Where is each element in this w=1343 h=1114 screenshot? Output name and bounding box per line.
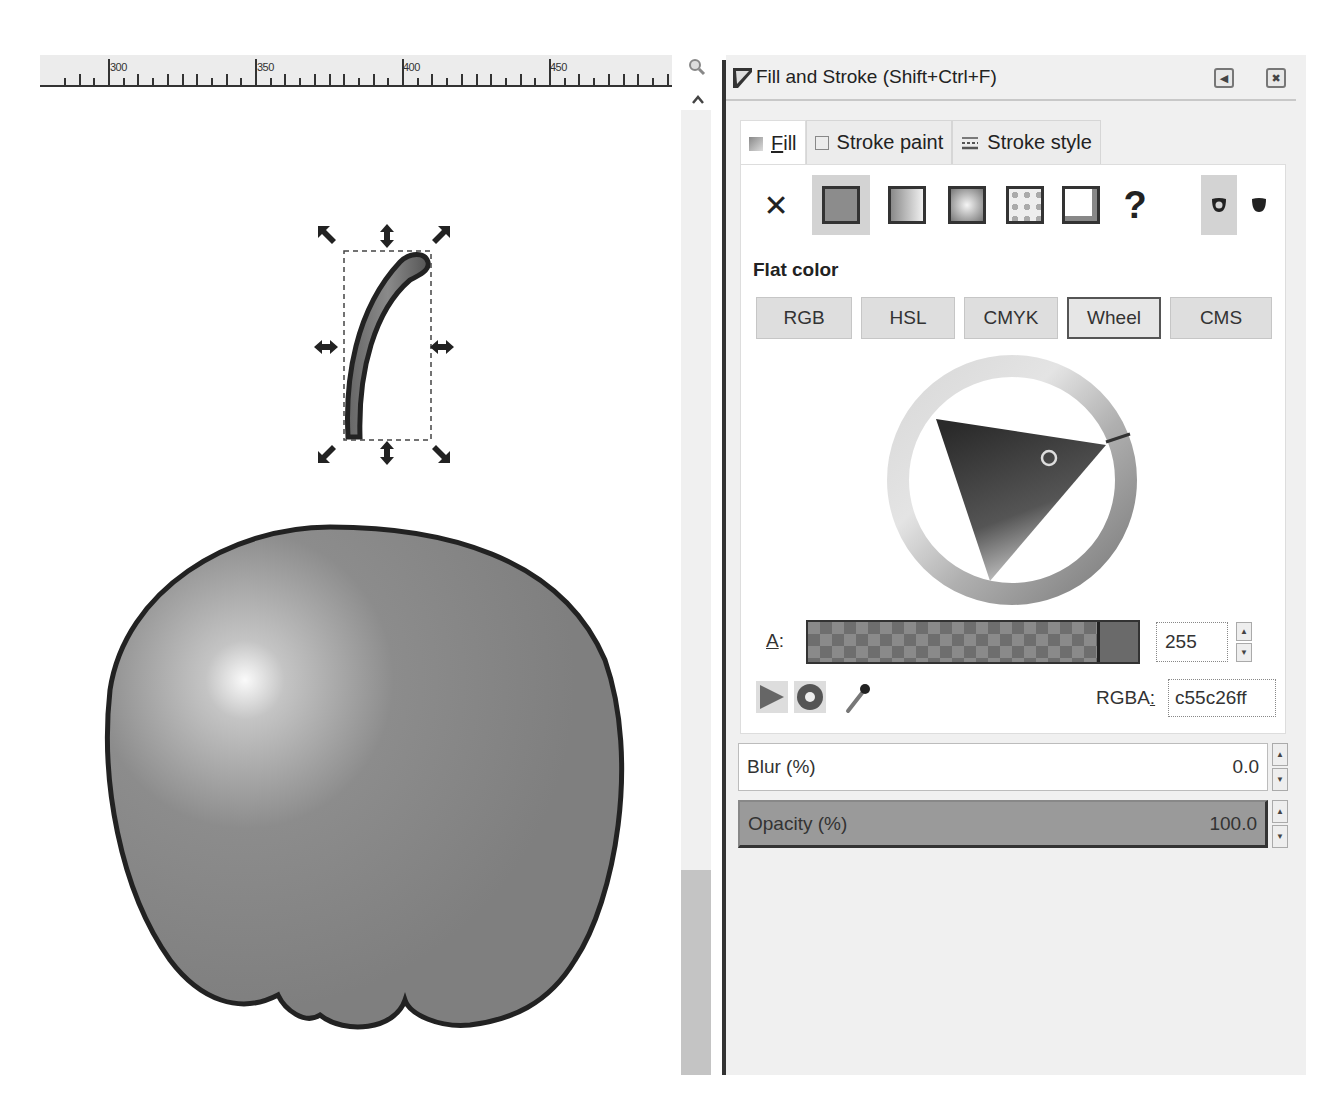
color-mode-tabs: RGB HSL CMYK Wheel CMS	[756, 297, 1272, 339]
out-of-gamut-icon[interactable]	[794, 681, 826, 713]
alpha-label: A:	[766, 630, 784, 652]
dialog-titlebar: Fill and Stroke (Shift+Ctrl+F) ◀ ✖	[726, 55, 1296, 101]
mode-cms-button[interactable]: CMS	[1170, 297, 1272, 339]
spin-down-icon[interactable]: ▼	[1272, 825, 1288, 848]
alpha-value-input[interactable]: 255	[1156, 622, 1228, 662]
tab-stroke-paint-label: Stroke paint	[837, 131, 944, 154]
no-paint-button[interactable]: ✕	[756, 175, 796, 235]
opacity-value: 100.0	[1209, 813, 1257, 835]
scale-handle-w[interactable]	[314, 340, 338, 354]
opacity-slider[interactable]: Opacity (%) 100.0	[738, 800, 1268, 848]
tab-fill[interactable]: Fill	[740, 120, 806, 166]
linear-gradient-icon	[888, 186, 926, 224]
spin-down-icon[interactable]: ▼	[1236, 643, 1252, 662]
stroke-paint-icon	[815, 136, 829, 150]
alpha-spinner[interactable]: ▲ ▼	[1236, 622, 1252, 662]
mode-cmyk-button[interactable]: CMYK	[964, 297, 1058, 339]
blur-spinner[interactable]: ▲ ▼	[1272, 743, 1288, 791]
color-wheel[interactable]	[884, 345, 1144, 615]
scale-handle-s[interactable]	[380, 441, 394, 465]
spin-up-icon[interactable]: ▲	[1272, 743, 1288, 766]
spin-up-icon[interactable]: ▲	[1272, 800, 1288, 823]
mode-hsl-button[interactable]: HSL	[861, 297, 955, 339]
unset-paint-button[interactable]: ?	[1106, 175, 1164, 235]
flat-color-button[interactable]	[812, 175, 870, 235]
pattern-button[interactable]	[996, 175, 1054, 235]
color-managed-icon[interactable]	[756, 681, 788, 713]
radial-gradient-icon	[948, 186, 986, 224]
rgba-input[interactable]: c55c26ff	[1168, 679, 1276, 717]
unset-icon: ?	[1123, 184, 1146, 227]
chevron-up-icon[interactable]	[690, 92, 706, 106]
scale-handle-ne[interactable]	[432, 226, 450, 244]
no-paint-icon: ✕	[763, 188, 788, 223]
fill-rule-evenodd-button[interactable]	[1201, 175, 1237, 235]
paint-type-row: ✕ ?	[756, 175, 1276, 235]
paint-mode-label: Flat color	[753, 259, 839, 281]
tab-stroke-paint[interactable]: Stroke paint	[806, 120, 953, 164]
scale-handle-e[interactable]	[430, 340, 454, 354]
blur-value: 0.0	[1233, 756, 1259, 778]
swatch-button[interactable]	[1052, 175, 1110, 235]
radial-gradient-button[interactable]	[938, 175, 996, 235]
opacity-label: Opacity (%)	[748, 813, 847, 835]
alpha-row: A: 255 ▲ ▼	[766, 620, 1286, 664]
tab-bar: Fill Stroke paint Stroke style	[740, 120, 1101, 164]
alpha-slider[interactable]	[806, 620, 1140, 664]
apple-body[interactable]	[108, 527, 622, 1027]
scale-handle-nw[interactable]	[318, 226, 336, 244]
linear-gradient-button[interactable]	[878, 175, 936, 235]
blur-label: Blur (%)	[747, 756, 816, 778]
scale-handle-sw[interactable]	[318, 445, 336, 463]
flat-color-icon	[822, 186, 860, 224]
swatch-icon	[1062, 186, 1100, 224]
dialog-title: Fill and Stroke (Shift+Ctrl+F)	[756, 66, 997, 88]
pattern-icon	[1006, 186, 1044, 224]
eyedropper-icon[interactable]	[842, 681, 872, 715]
spin-up-icon[interactable]: ▲	[1236, 622, 1252, 641]
blur-slider[interactable]: Blur (%) 0.0	[738, 743, 1268, 791]
rgba-label: RGBA:	[1096, 687, 1155, 709]
scale-handle-se[interactable]	[432, 445, 450, 463]
scrollbar-thumb[interactable]	[681, 870, 711, 1075]
iconify-arrow-icon[interactable]: ◀	[1214, 68, 1234, 88]
vertical-scrollbar[interactable]	[681, 110, 711, 1075]
selection-handles[interactable]	[314, 224, 454, 465]
stroke-style-icon	[961, 134, 979, 152]
fill-rule-evenodd-icon	[1210, 196, 1228, 214]
scale-handle-n[interactable]	[380, 224, 394, 248]
tab-stroke-style[interactable]: Stroke style	[952, 120, 1100, 164]
opacity-spinner[interactable]: ▲ ▼	[1272, 800, 1288, 848]
fill-rule-nonzero-button[interactable]	[1244, 175, 1274, 235]
fill-and-stroke-dialog: Fill and Stroke (Shift+Ctrl+F) ◀ ✖ Fill …	[726, 55, 1306, 1075]
tab-stroke-style-label: Stroke style	[987, 131, 1091, 154]
spin-down-icon[interactable]: ▼	[1272, 768, 1288, 791]
mode-wheel-button[interactable]: Wheel	[1067, 297, 1161, 339]
close-icon[interactable]: ✖	[1266, 68, 1286, 88]
color-tools-row: RGBA: c55c26ff	[756, 675, 1276, 719]
tab-fill-label: Fill	[771, 132, 797, 155]
apple-stem[interactable]	[348, 255, 429, 438]
fill-stroke-dialog-icon	[730, 64, 756, 90]
zoom-magnifier-icon[interactable]	[688, 58, 706, 76]
saturation-value-triangle[interactable]	[936, 419, 1106, 581]
fill-rule-nonzero-icon	[1250, 196, 1268, 214]
drawing-canvas[interactable]	[0, 0, 680, 1114]
mode-rgb-button[interactable]: RGB	[756, 297, 852, 339]
fill-swatch-icon	[749, 137, 763, 151]
